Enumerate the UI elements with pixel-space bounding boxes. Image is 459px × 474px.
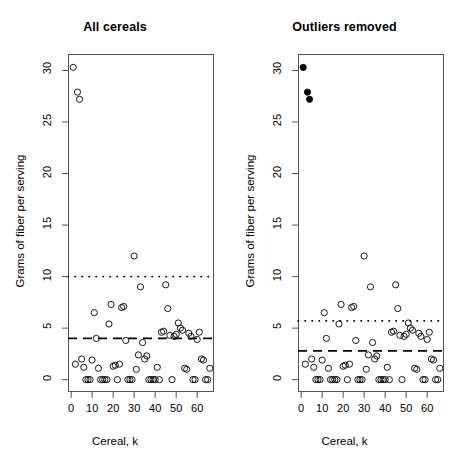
x-axis-title-right: Cereal, k xyxy=(230,435,459,447)
x-tick-label: 60 xyxy=(412,402,442,414)
panel-all-cereals: All cereals Grams of fiber per serving C… xyxy=(0,0,230,474)
plot-box-left xyxy=(68,54,214,392)
y-tick-label: 0 xyxy=(271,367,283,389)
y-tick-label: 25 xyxy=(41,109,53,131)
panel-outliers-removed: Outliers removed Grams of fiber per serv… xyxy=(230,0,459,474)
y-tick-label: 20 xyxy=(271,161,283,183)
y-tick-label: 25 xyxy=(271,109,283,131)
y-axis-title-right: Grams of fiber per serving xyxy=(244,52,256,390)
x-axis-title-left: Cereal, k xyxy=(0,435,230,447)
y-tick-label: 20 xyxy=(41,161,53,183)
y-tick-label: 5 xyxy=(41,315,53,337)
y-axis-title-left: Grams of fiber per serving xyxy=(14,52,26,390)
x-tick-label: 60 xyxy=(182,402,212,414)
y-tick-label: 10 xyxy=(271,264,283,286)
y-tick-label: 0 xyxy=(41,367,53,389)
panel-title-right: Outliers removed xyxy=(230,20,459,34)
y-tick-label: 5 xyxy=(271,315,283,337)
panel-title-left: All cereals xyxy=(0,20,230,34)
plot-box-right xyxy=(298,54,444,392)
y-tick-label: 15 xyxy=(41,212,53,234)
y-tick-label: 15 xyxy=(271,212,283,234)
y-tick-label: 30 xyxy=(271,57,283,79)
y-tick-label: 30 xyxy=(41,57,53,79)
figure-canvas: All cereals Grams of fiber per serving C… xyxy=(0,0,459,474)
y-tick-label: 10 xyxy=(41,264,53,286)
